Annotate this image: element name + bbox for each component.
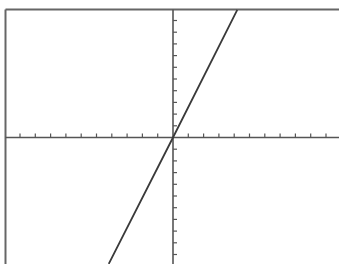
graph-screen — [0, 0, 339, 264]
axes — [6, 10, 339, 264]
